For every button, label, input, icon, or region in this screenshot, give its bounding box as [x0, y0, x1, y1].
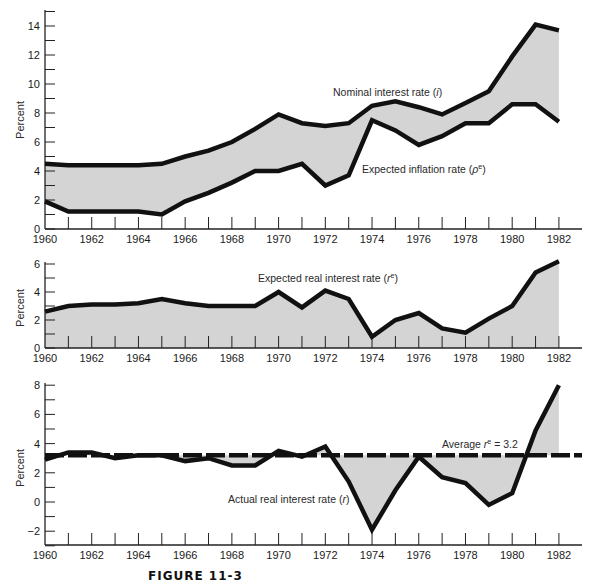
- x-tick-label: 1964: [126, 549, 150, 561]
- label-average-real-rate: Average re = 3.2: [442, 438, 518, 450]
- y-tick-label: 12: [28, 49, 40, 61]
- x-tick-label: 1966: [173, 233, 197, 245]
- x-tick-label: 1976: [407, 549, 431, 561]
- x-tick-label: 1982: [547, 233, 571, 245]
- y-axis-label: Percent: [14, 101, 26, 139]
- label-expected-inflation-rate: Expected inflation rate (ρe): [362, 163, 486, 175]
- y-tick-label: 14: [28, 20, 40, 32]
- y-axis-label: Percent: [14, 449, 26, 487]
- y-tick-label: 4: [34, 165, 40, 177]
- x-tick-label: 1960: [33, 352, 57, 364]
- y-tick-label: −2: [27, 525, 40, 537]
- shaded-gap-area: [45, 25, 559, 215]
- y-tick-label: 6: [34, 408, 40, 420]
- x-tick-label: 1980: [500, 352, 524, 364]
- y-tick-label: 8: [34, 379, 40, 391]
- x-tick-label: 1982: [547, 549, 571, 561]
- x-tick-label: 1970: [266, 233, 290, 245]
- y-tick-label: 6: [34, 258, 40, 270]
- x-tick-label: 1980: [500, 233, 524, 245]
- x-tick-label: 1978: [453, 549, 477, 561]
- panel-nominal-vs-expected-inflation: 0246810121419601962196419661968197019721…: [14, 10, 582, 245]
- y-tick-label: 6: [34, 136, 40, 148]
- x-tick-label: 1968: [220, 233, 244, 245]
- x-tick-label: 1972: [313, 233, 337, 245]
- y-axis-label: Percent: [14, 289, 26, 327]
- figure-chart: 0246810121419601962196419661968197019721…: [0, 0, 592, 588]
- label-expected-real-rate: Expected real interest rate (re): [258, 272, 398, 284]
- x-tick-label: 1976: [407, 233, 431, 245]
- y-tick-label: 2: [34, 467, 40, 479]
- x-tick-label: 1974: [360, 352, 384, 364]
- y-tick-label: 2: [34, 194, 40, 206]
- x-tick-label: 1960: [33, 233, 57, 245]
- y-tick-label: 10: [28, 78, 40, 90]
- x-tick-label: 1970: [266, 549, 290, 561]
- x-tick-label: 1978: [453, 352, 477, 364]
- figure-caption: FIGURE 11-3: [148, 569, 243, 583]
- x-tick-label: 1972: [313, 352, 337, 364]
- x-tick-label: 1964: [126, 352, 150, 364]
- x-tick-label: 1974: [360, 549, 384, 561]
- x-tick-label: 1962: [79, 352, 103, 364]
- x-tick-label: 1960: [33, 549, 57, 561]
- y-tick-label: 4: [34, 438, 40, 450]
- y-tick-label: 0: [34, 496, 40, 508]
- panel-actual-real-rate: −202468196019621964196619681970197219741…: [14, 379, 582, 561]
- x-tick-label: 1968: [220, 549, 244, 561]
- x-tick-label: 1966: [173, 352, 197, 364]
- x-tick-label: 1966: [173, 549, 197, 561]
- label-actual-real-rate: Actual real interest rate (r): [228, 493, 349, 505]
- x-tick-label: 1974: [360, 233, 384, 245]
- y-tick-label: 8: [34, 107, 40, 119]
- x-tick-label: 1964: [126, 233, 150, 245]
- x-tick-label: 1968: [220, 352, 244, 364]
- x-tick-label: 1970: [266, 352, 290, 364]
- y-tick-label: 2: [34, 314, 40, 326]
- x-tick-label: 1972: [313, 549, 337, 561]
- label-nominal-interest-rate: Nominal interest rate (i): [333, 86, 442, 98]
- x-tick-label: 1962: [79, 549, 103, 561]
- x-tick-label: 1978: [453, 233, 477, 245]
- x-tick-label: 1980: [500, 549, 524, 561]
- x-tick-label: 1976: [407, 352, 431, 364]
- y-tick-label: 4: [34, 286, 40, 298]
- x-tick-label: 1962: [79, 233, 103, 245]
- x-tick-label: 1982: [547, 352, 571, 364]
